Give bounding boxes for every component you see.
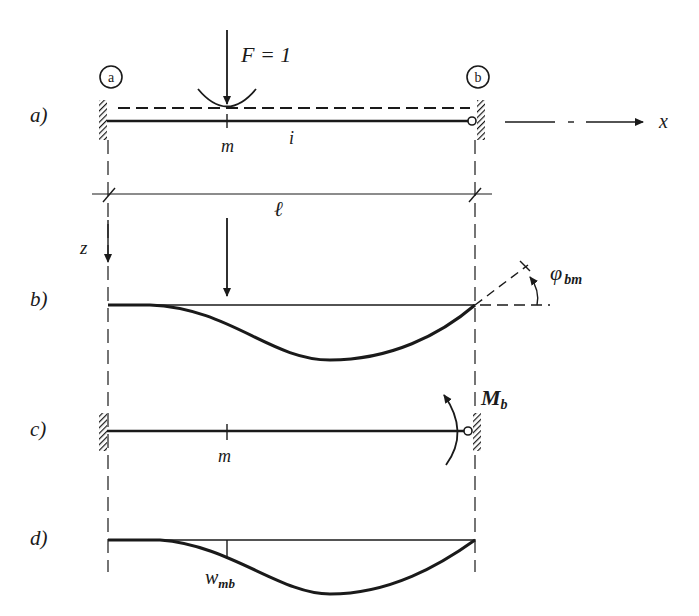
panel-a-label: a) <box>30 103 48 127</box>
panel-b: b) φbm <box>30 218 582 360</box>
rotation-arc-icon <box>530 277 538 305</box>
moment-label: Mb <box>480 385 508 412</box>
panel-a: a) a b m i F = 1 x <box>30 30 668 156</box>
fixed-support-right-c <box>473 413 481 451</box>
fixed-support-left-c <box>99 413 107 451</box>
rotation-label: φbm <box>550 260 582 287</box>
panel-d-label: d) <box>30 526 48 550</box>
load-label: F = 1 <box>240 42 291 67</box>
z-axis: z <box>79 220 108 262</box>
panel-c: c) m Mb <box>30 385 508 466</box>
deflection-curve-b <box>108 305 475 360</box>
node-a-marker: a <box>100 66 122 88</box>
point-m-label-c: m <box>218 446 231 466</box>
svg-text:b: b <box>475 70 482 85</box>
panel-b-label: b) <box>30 287 48 311</box>
x-axis: x <box>505 110 668 132</box>
member-i-label: i <box>289 128 294 148</box>
span-dimension: ℓ <box>92 188 492 221</box>
deflection-curve-d <box>108 540 475 594</box>
svg-text:a: a <box>108 70 115 85</box>
reference-lines <box>108 140 475 572</box>
beam-diagram: a) a b m i F = 1 x <box>0 0 699 616</box>
fixed-support-left <box>99 100 107 140</box>
x-axis-label: x <box>658 110 668 132</box>
z-axis-label: z <box>79 237 88 258</box>
point-m-label: m <box>221 136 234 156</box>
panel-d: d) wmb <box>30 526 475 594</box>
hinge-icon <box>468 117 476 125</box>
deflection-label: wmb <box>205 566 235 591</box>
hinge-icon-c <box>464 427 472 435</box>
node-b-marker: b <box>467 66 489 88</box>
fixed-support-right <box>477 100 485 140</box>
span-length-label: ℓ <box>274 197 283 221</box>
panel-c-label: c) <box>30 417 46 441</box>
